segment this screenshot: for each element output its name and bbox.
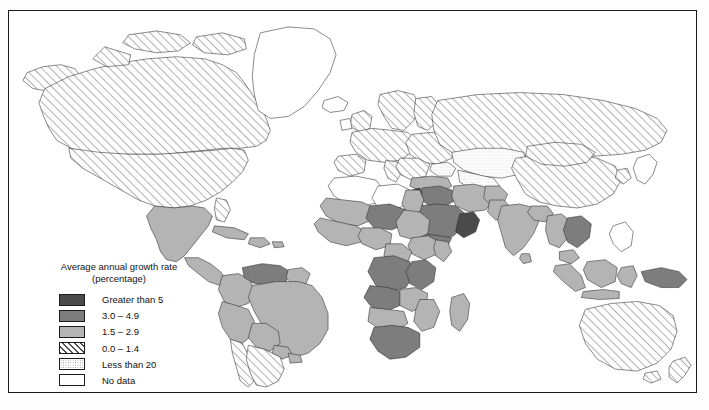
region-iberia [334, 154, 366, 176]
legend-item-less-than-20: Less than 20 [59, 357, 229, 371]
region-florida [214, 198, 230, 222]
region-caucasus [430, 162, 456, 176]
swatch-3-0-to-4-9 [59, 310, 85, 322]
legend-item-0-0-to-1-4: 0.0 – 1.4 [59, 341, 229, 355]
region-new-zealand [669, 357, 691, 383]
legend-item-greater-than-5: Greater than 5 [59, 293, 229, 307]
region-iceland [322, 97, 348, 113]
legend-label-no-data: No data [102, 375, 135, 386]
region-hispaniola [248, 238, 270, 248]
region-java [581, 290, 619, 300]
legend: Average annual growth rate (percentage) … [29, 261, 229, 390]
swatch-greater-than-5 [59, 294, 85, 306]
region-australia [579, 301, 677, 371]
map-frame: Average annual growth rate (percentage) … [8, 10, 697, 393]
region-ireland [340, 118, 352, 130]
legend-item-3-0-to-4-9: 3.0 – 4.9 [59, 309, 229, 323]
region-puerto-rico [272, 242, 284, 248]
legend-label-0-0-to-1-4: 0.0 – 1.4 [102, 343, 139, 354]
legend-item-no-data: No data [59, 373, 229, 387]
region-kenya-tanzania [406, 260, 436, 290]
legend-label-less-than-20: Less than 20 [102, 359, 156, 370]
region-scandinavia [378, 91, 420, 131]
region-tasmania [643, 371, 661, 383]
swatch-no-data [59, 374, 85, 386]
swatch-0-0-to-1-4 [59, 342, 85, 354]
region-borneo [583, 260, 617, 288]
region-japan [633, 154, 657, 184]
figure-page: Average annual growth rate (percentage) … [0, 0, 709, 410]
region-madagascar [450, 294, 470, 332]
region-canada-arctic-1 [123, 31, 191, 53]
region-canada-arctic-2 [192, 33, 246, 55]
region-mozambique [414, 299, 440, 331]
region-syria-iraq [422, 186, 456, 206]
legend-title-line-2: (percentage) [33, 273, 205, 285]
region-new-guinea [641, 268, 687, 288]
region-philippines [609, 222, 633, 252]
legend-label-1-5-to-2-9: 1.5 – 2.9 [102, 326, 139, 337]
region-sri-lanka [520, 254, 532, 264]
region-guyanas [286, 268, 310, 284]
legend-items: Greater than 5 3.0 – 4.9 1.5 – 2.9 0.0 –… [59, 293, 229, 387]
legend-item-1-5-to-2-9: 1.5 – 2.9 [59, 325, 229, 339]
region-malaysia [559, 250, 579, 264]
region-sulawesi [617, 266, 637, 288]
region-sumatra [553, 264, 585, 292]
legend-label-3-0-to-4-9: 3.0 – 4.9 [102, 310, 139, 321]
swatch-less-than-20 [59, 358, 85, 370]
region-canada-arctic-3 [93, 47, 131, 67]
region-cuba [212, 226, 248, 240]
swatch-1-5-to-2-9 [59, 326, 85, 338]
legend-title: Average annual growth rate (percentage) [33, 261, 205, 284]
region-oman-uae [456, 212, 480, 238]
region-indochina [563, 216, 591, 248]
region-south-africa [370, 325, 420, 359]
legend-label-greater-than-5: Greater than 5 [102, 294, 163, 305]
region-mexico [147, 206, 213, 262]
legend-title-line-1: Average annual growth rate [33, 261, 205, 273]
